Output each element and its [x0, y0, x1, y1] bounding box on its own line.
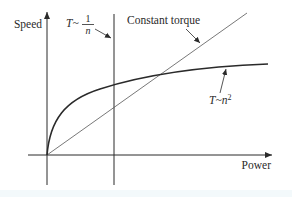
constant-power-label-numerator: 1 [86, 13, 91, 24]
constant-torque-pointer-arrow [186, 29, 200, 43]
speed-power-diagram: Speed Power T~ 1 n Constant torque T~n2 [0, 0, 292, 197]
constant-power-pointer-arrow [95, 29, 111, 38]
constant-power-label-denominator: n [86, 25, 91, 36]
y-axis-label: Speed [14, 18, 42, 31]
fan-load-label-exponent: 2 [227, 93, 231, 102]
fan-load-label: T~n2 [209, 93, 231, 106]
constant-torque-label: Constant torque [127, 14, 200, 27]
fan-load-curve [47, 64, 268, 155]
constant-power-label-prefix: T~ [66, 17, 79, 29]
fan-load-label-prefix: T~ [209, 94, 222, 106]
constant-torque-line [47, 13, 247, 155]
constant-power-label: T~ 1 n [66, 13, 94, 36]
diagram-canvas: Speed Power T~ 1 n Constant torque T~n2 [0, 0, 292, 197]
fan-load-label-text: T~n2 [209, 93, 231, 106]
x-axis-label: Power [242, 159, 272, 171]
bottom-strip [0, 190, 292, 197]
fan-load-pointer-arrow [220, 69, 226, 93]
